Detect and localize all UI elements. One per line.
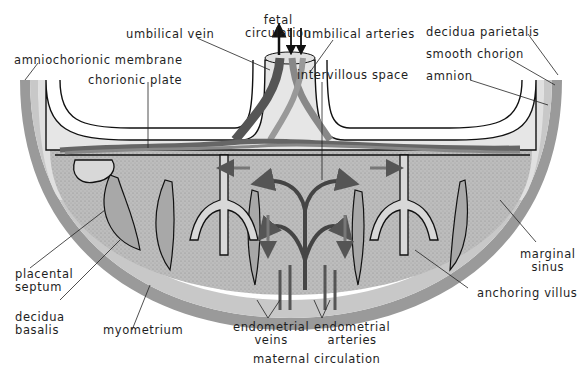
label-umbilical-vein: umbilical vein	[126, 28, 214, 41]
label-smooth-chorion: smooth chorion	[426, 48, 524, 61]
label-amniochorionic-membrane: amniochorionic membrane	[14, 54, 183, 67]
label-anchoring-villus: anchoring villus	[477, 287, 577, 300]
label-text: veins	[233, 334, 309, 347]
label-text: circulation	[245, 27, 311, 40]
label-endometrial-veins: endometrial veins	[233, 321, 309, 347]
label-text: septum	[15, 281, 73, 294]
label-text: sinus	[520, 261, 576, 274]
label-chorionic-plate: chorionic plate	[88, 74, 182, 87]
label-maternal-circulation: maternal circulation	[253, 353, 380, 366]
label-text: arteries	[314, 334, 390, 347]
label-endometrial-arteries: endometrial arteries	[314, 321, 390, 347]
placenta-diagram: fetal circulation umbilical vein umbilic…	[0, 0, 581, 372]
label-intervillous-space: intervillous space	[297, 69, 409, 82]
label-umbilical-arteries: umbilical arteries	[304, 28, 415, 41]
label-text: basalis	[15, 324, 65, 337]
label-placental-septum: placental septum	[15, 268, 73, 294]
label-marginal-sinus: marginal sinus	[520, 248, 576, 274]
label-amnion: amnion	[426, 70, 473, 83]
label-myometrium: myometrium	[103, 324, 183, 337]
label-decidua-parietalis: decidua parietalis	[426, 26, 539, 39]
label-fetal-circulation: fetal circulation	[245, 14, 311, 40]
label-decidua-basalis: decidua basalis	[15, 311, 65, 337]
